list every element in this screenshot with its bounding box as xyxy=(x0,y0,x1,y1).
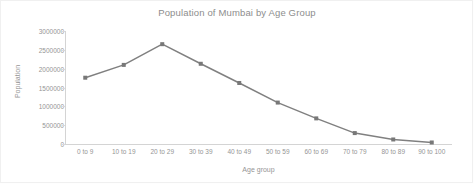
data-point-marker xyxy=(160,42,164,46)
data-point-marker xyxy=(314,116,318,120)
data-point-marker xyxy=(353,131,357,135)
data-point-marker xyxy=(276,101,280,105)
line-series xyxy=(0,0,474,184)
series-line xyxy=(85,44,432,142)
data-point-marker xyxy=(430,140,434,144)
data-point-marker xyxy=(199,62,203,66)
chart-screenshot: Population of Mumbai by Age Group Popula… xyxy=(0,0,474,184)
data-point-marker xyxy=(391,137,395,141)
data-point-marker xyxy=(237,81,241,85)
data-point-marker xyxy=(122,63,126,67)
data-point-marker xyxy=(83,76,87,80)
